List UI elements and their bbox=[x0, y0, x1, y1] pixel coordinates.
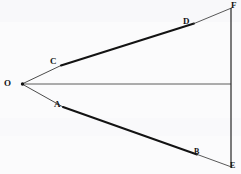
figure-canvas bbox=[0, 0, 241, 174]
segment-b-e bbox=[196, 154, 232, 167]
segment-d-f bbox=[193, 8, 232, 24]
point-label-f: F bbox=[231, 1, 237, 10]
point-label-c: C bbox=[50, 57, 57, 66]
segment-o-c bbox=[22, 65, 62, 84]
segment-a-b bbox=[63, 107, 197, 155]
point-label-b: B bbox=[194, 147, 199, 156]
point-label-a: A bbox=[54, 100, 61, 109]
point-label-o: O bbox=[4, 79, 11, 88]
segment-c-d bbox=[61, 24, 194, 66]
point-label-d: D bbox=[183, 17, 190, 26]
point-label-e: E bbox=[230, 161, 235, 170]
vertex-dot-o bbox=[21, 82, 24, 85]
geometry-figure: O C D F A B E bbox=[0, 0, 241, 174]
